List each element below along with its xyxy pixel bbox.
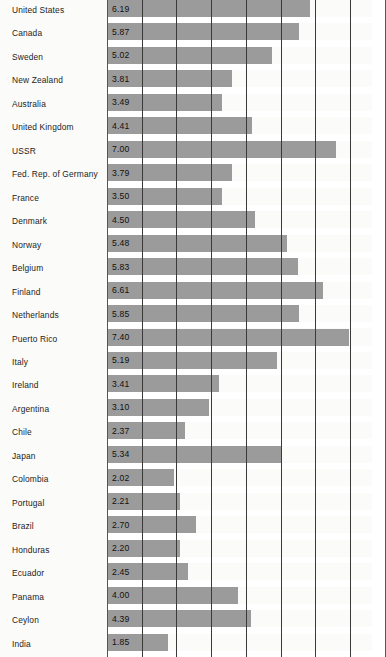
chart-row: Portugal2.21 [0,493,372,517]
chart-row: Brazil2.70 [0,516,372,540]
bar-value-label: 5.19 [112,355,130,365]
bar [108,305,299,322]
bar [108,235,287,252]
chart-row: Belgium5.83 [0,258,372,282]
bar-value-label: 3.50 [112,191,130,201]
bar-value-label: 3.41 [112,379,130,389]
chart-row: Ecuador2.45 [0,563,372,587]
bar-value-label: 5.02 [112,50,130,60]
chart-row: Italy5.19 [0,352,372,376]
category-label: Finland [12,287,41,297]
category-label: Ecuador [12,568,44,578]
chart-row: Puerto Rico7.40 [0,329,372,353]
chart-row: Norway5.48 [0,235,372,259]
chart-row: Japan5.34 [0,446,372,470]
chart-row: United Kingdom4.41 [0,117,372,141]
category-label: Sweden [12,52,43,62]
bar-value-label: 7.40 [112,332,130,342]
bar [108,141,336,158]
bar-value-label: 3.10 [112,402,130,412]
chart-row: Ireland3.41 [0,375,372,399]
bar-value-label: 3.49 [112,97,130,107]
chart-row: Netherlands5.85 [0,305,372,329]
bar [108,211,255,228]
category-label: USSR [12,146,36,156]
category-label: Belgium [12,263,43,273]
chart-row: Denmark4.50 [0,211,372,235]
chart-row: Canada5.87 [0,23,372,47]
category-label: Australia [12,99,46,109]
category-label: Denmark [12,216,47,226]
chart-row: France3.50 [0,188,372,212]
chart-row: Australia3.49 [0,94,372,118]
bar [108,282,323,299]
bar-value-label: 2.02 [112,473,130,483]
category-label: United Kingdom [12,122,74,132]
category-label: United States [12,5,64,15]
category-label: New Zealand [12,75,63,85]
gridline-8 [385,0,386,657]
bar-value-label: 2.45 [112,567,130,577]
category-label: Panama [12,592,44,602]
bar-value-label: 2.37 [112,426,130,436]
bar-value-label: 1.85 [112,637,130,647]
bar-value-label: 2.70 [112,520,130,530]
category-label: Netherlands [12,310,59,320]
chart-row: Fed. Rep. of Germany3.79 [0,164,372,188]
bar [108,47,272,64]
category-label: Colombia [12,474,49,484]
category-label: Portugal [12,498,44,508]
bar-value-label: 5.85 [112,309,130,319]
category-label: India [12,639,31,649]
bar-value-label: 4.39 [112,614,130,624]
bar-value-label: 4.41 [112,121,130,131]
category-label: Norway [12,240,41,250]
bar-value-label: 2.20 [112,543,130,553]
bar-value-label: 2.21 [112,496,130,506]
chart-row: USSR7.00 [0,141,372,165]
chart-row: New Zealand3.81 [0,70,372,94]
category-label: Fed. Rep. of Germany [12,169,98,179]
bar [108,329,349,346]
category-label: France [12,193,39,203]
bar-value-label: 6.61 [112,285,130,295]
chart-row: Sweden5.02 [0,47,372,71]
bar [108,23,299,40]
category-label: Ireland [12,380,39,390]
chart-row: Finland6.61 [0,282,372,306]
category-label: Japan [12,451,36,461]
category-label: Chile [12,427,32,437]
chart-row: Honduras2.20 [0,540,372,564]
bar-value-label: 5.87 [112,27,130,37]
category-label: Puerto Rico [12,334,57,344]
bar-value-label: 6.19 [112,4,130,14]
bar [108,0,310,17]
bar-value-label: 5.48 [112,238,130,248]
category-label: Argentina [12,404,49,414]
bar-value-label: 4.50 [112,215,130,225]
chart-row: United States6.19 [0,0,372,24]
category-label: Honduras [12,545,50,555]
bar-value-label: 5.83 [112,262,130,272]
category-label: Ceylon [12,615,39,625]
chart-row: India1.85 [0,634,372,657]
bar [108,258,298,275]
bar-value-label: 3.79 [112,168,130,178]
bar-value-label: 3.81 [112,74,130,84]
chart-row: Panama4.00 [0,587,372,611]
bar-value-label: 5.34 [112,449,130,459]
category-label: Canada [12,28,42,38]
bar [108,352,277,369]
category-label: Brazil [12,521,34,531]
chart-row: Argentina3.10 [0,399,372,423]
bar-value-label: 4.00 [112,590,130,600]
chart-row: Colombia2.02 [0,469,372,493]
chart-row: Ceylon4.39 [0,610,372,634]
bar-value-label: 7.00 [112,144,130,154]
category-label: Italy [12,357,28,367]
chart-row: Chile2.37 [0,422,372,446]
bar [108,446,282,463]
